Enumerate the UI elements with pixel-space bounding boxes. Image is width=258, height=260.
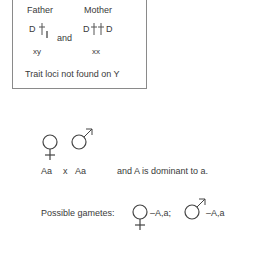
female-symbol-icon (130, 202, 150, 232)
cross-symbol: x (63, 167, 68, 176)
female-symbol-icon (40, 133, 60, 163)
male-genotype: Aa (75, 167, 86, 176)
mother-allele-left: D (83, 25, 90, 34)
and-connector: and (57, 34, 72, 43)
father-label: Father (27, 6, 53, 15)
mother-sex-chromosomes: xx (92, 48, 100, 56)
female-gametes: –A,a; (150, 209, 171, 218)
trait-note: Trait loci not found on Y (25, 70, 120, 79)
father-sex-chromosomes: xy (33, 48, 41, 56)
male-symbol-icon (70, 127, 96, 155)
chromosome-icon (38, 22, 50, 38)
mother-allele-right: D (106, 25, 113, 34)
mother-label: Mother (84, 6, 112, 15)
dominance-note: and A is dominant to a. (117, 167, 208, 176)
male-gametes: –A,a (206, 209, 225, 218)
father-allele: D (29, 25, 36, 34)
female-genotype: Aa (41, 167, 52, 176)
chromosome-icon (91, 22, 105, 36)
gametes-label: Possible gametes: (41, 209, 115, 218)
